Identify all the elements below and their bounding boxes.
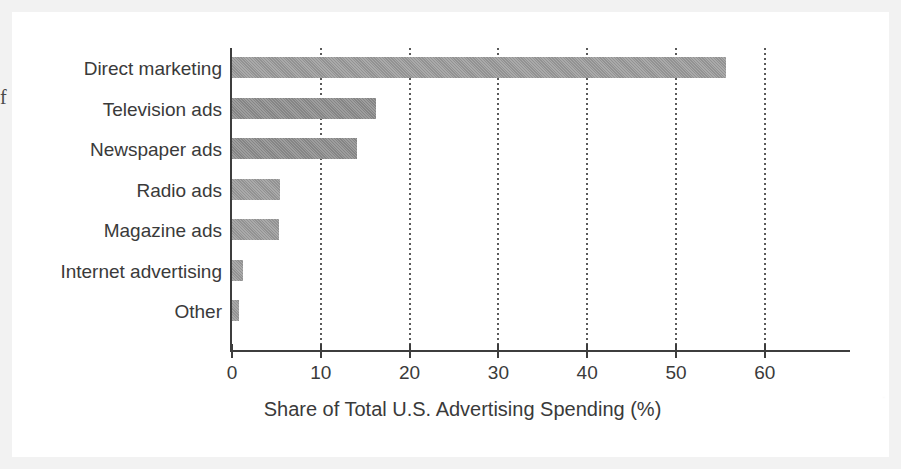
y-axis-line: [230, 48, 232, 351]
bar-1: [231, 98, 376, 119]
x-tick-label-10: 10: [301, 362, 341, 384]
bar-chart: Direct marketingTelevision adsNewspaper …: [0, 0, 901, 469]
gridline-20: [409, 48, 411, 350]
x-axis-line: [230, 350, 850, 352]
bar-3: [231, 179, 280, 200]
category-label-3: Radio ads: [22, 180, 222, 201]
category-label-6: Other: [22, 301, 222, 322]
x-tick-label-50: 50: [656, 362, 696, 384]
x-tick-0: [231, 344, 233, 358]
gridline-10: [320, 48, 322, 350]
category-label-1: Television ads: [22, 99, 222, 120]
x-tick-40: [586, 344, 588, 358]
x-tick-10: [320, 344, 322, 358]
category-label-5: Internet advertising: [22, 261, 222, 282]
x-tick-50: [675, 344, 677, 358]
bar-6: [231, 300, 239, 321]
x-tick-label-20: 20: [390, 362, 430, 384]
gridline-60: [764, 48, 766, 350]
x-tick-60: [764, 344, 766, 358]
bar-2: [231, 138, 357, 159]
bar-5: [231, 260, 243, 281]
x-tick-20: [409, 344, 411, 358]
gridline-50: [675, 48, 677, 350]
x-axis-title: Share of Total U.S. Advertising Spending…: [0, 398, 901, 421]
bar-0: [231, 57, 726, 78]
x-tick-label-40: 40: [567, 362, 607, 384]
x-tick-label-0: 0: [212, 362, 252, 384]
gridline-40: [586, 48, 588, 350]
category-label-0: Direct marketing: [22, 58, 222, 79]
bar-4: [231, 219, 279, 240]
x-tick-label-30: 30: [478, 362, 518, 384]
x-tick-30: [497, 344, 499, 358]
category-label-4: Magazine ads: [22, 220, 222, 241]
x-tick-label-60: 60: [745, 362, 785, 384]
category-label-2: Newspaper ads: [22, 139, 222, 160]
scanned-page: f · Direct marketingTelevision adsNewspa…: [0, 0, 901, 469]
x-axis-title-text: Share of Total U.S. Advertising Spending…: [264, 398, 662, 421]
gridline-30: [497, 48, 499, 350]
